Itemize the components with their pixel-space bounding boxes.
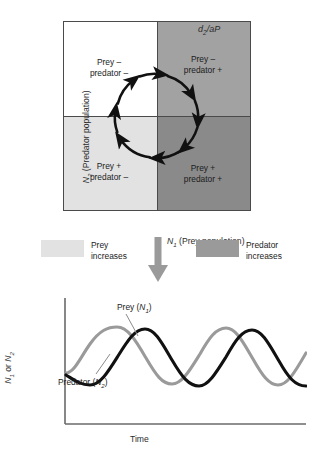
legend-label-predator-line2: increases — [246, 251, 282, 261]
cycle-arrow-6 — [168, 76, 192, 94]
legend-label-prey: Prey increases — [91, 240, 153, 261]
legend-label-predator: Predator increases — [246, 240, 308, 261]
legend-swatch-predator — [196, 240, 239, 257]
time-series-panel — [10, 296, 307, 444]
phase-axis-left-label: N2 (Predator population) — [81, 57, 93, 217]
legend-item-predator: Predator increases — [196, 240, 308, 261]
cycle-arrow-5 — [140, 74, 160, 77]
curve-label-predator: Predator (N2) — [58, 377, 107, 389]
legend-label-prey-line1: Prey — [91, 240, 108, 250]
cycle-arrow-4 — [118, 81, 133, 104]
curve-label-prey: Prey (N1) — [117, 302, 152, 314]
cycle-arrow-2 — [120, 139, 150, 157]
time-axis-y-label: N1 or N2 — [3, 333, 15, 403]
phase-axis-top-label: d2/aP — [198, 24, 220, 36]
figure-predator-prey: Prey – predator – Prey – predator + Prey… — [0, 0, 317, 454]
cycle-arrow-7 — [195, 101, 198, 121]
cycle-arrow-8 — [185, 128, 198, 148]
legend-swatch-prey — [41, 240, 84, 257]
time-axis-x-label: Time — [130, 434, 149, 444]
down-arrow-icon — [146, 237, 170, 283]
legend-item-prey: Prey increases — [41, 240, 153, 261]
time-series-plot — [10, 296, 307, 444]
legend: Prey increases Predator increases — [0, 237, 317, 285]
legend-label-predator-line1: Predator — [246, 240, 278, 250]
phase-plane-panel: Prey – predator – Prey – predator + Prey… — [63, 21, 251, 211]
cycle-arrow-3 — [115, 111, 118, 132]
legend-label-prey-line2: increases — [91, 251, 127, 261]
cycle-arrow-1 — [158, 151, 180, 158]
